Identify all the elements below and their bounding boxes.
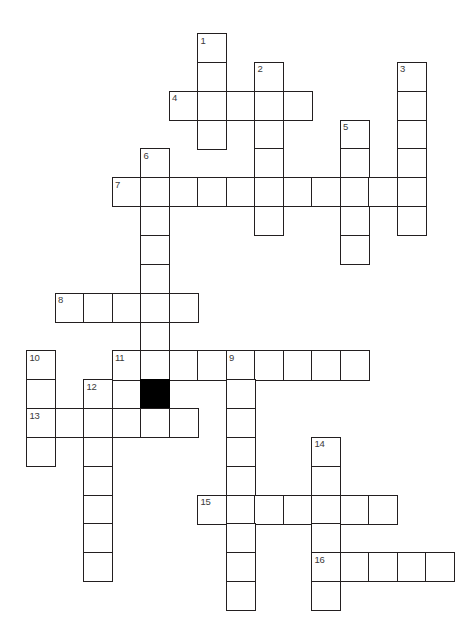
crossword-cell[interactable] [254,148,284,178]
crossword-cell[interactable]: 4 [169,91,199,121]
crossword-cell[interactable] [368,552,398,582]
crossword-cell[interactable] [283,495,313,525]
crossword-cell[interactable] [254,495,284,525]
crossword-cell[interactable] [311,523,341,553]
crossword-cell[interactable] [197,120,227,150]
crossword-cell[interactable] [397,148,427,178]
crossword-cell[interactable] [254,350,284,380]
crossword-cell[interactable] [197,350,227,380]
crossword-cell[interactable] [140,350,170,380]
crossword-cell[interactable] [169,350,199,380]
crossword-cell[interactable]: 8 [55,293,85,323]
crossword-cell[interactable] [140,206,170,236]
crossword-cell[interactable]: 12 [83,379,113,409]
clue-number-15: 15 [201,496,211,507]
clue-number-6: 6 [144,150,149,161]
crossword-cell[interactable] [140,264,170,294]
crossword-cell[interactable] [83,466,113,496]
crossword-cell[interactable]: 9 [226,350,256,380]
clue-number-13: 13 [30,410,40,421]
crossword-cell[interactable] [197,62,227,92]
crossword-cell[interactable] [311,495,341,525]
crossword-cell[interactable] [140,235,170,265]
crossword-cell[interactable] [397,120,427,150]
crossword-cell[interactable] [340,148,370,178]
crossword-cell[interactable] [397,552,427,582]
crossword-cell[interactable]: 14 [311,437,341,467]
crossword-cell[interactable] [140,322,170,352]
crossword-cell[interactable]: 2 [254,62,284,92]
crossword-cell[interactable] [226,581,256,611]
crossword-cell[interactable]: 13 [26,408,56,438]
crossword-cell[interactable] [226,552,256,582]
crossword-cell[interactable] [226,437,256,467]
crossword-cell[interactable] [340,177,370,207]
crossword-puzzle: 12345678101191213141516 [0,0,476,623]
crossword-cell[interactable] [83,293,113,323]
crossword-cell[interactable] [397,206,427,236]
crossword-cell[interactable] [226,177,256,207]
crossword-cell[interactable] [254,120,284,150]
crossword-cell[interactable]: 1 [197,33,227,63]
crossword-cell[interactable] [283,91,313,121]
clue-number-1: 1 [201,35,206,46]
crossword-cell[interactable] [26,437,56,467]
crossword-cell[interactable] [397,177,427,207]
crossword-cell[interactable] [55,408,85,438]
crossword-cell[interactable] [83,523,113,553]
crossword-cell[interactable] [197,177,227,207]
crossword-cell[interactable] [26,379,56,409]
crossword-cell[interactable] [197,91,227,121]
crossword-cell[interactable] [311,466,341,496]
crossword-grid[interactable]: 12345678101191213141516 [0,0,476,623]
clue-number-16: 16 [315,554,325,565]
crossword-cell[interactable] [169,293,199,323]
crossword-cell[interactable] [83,437,113,467]
crossword-cell[interactable] [226,466,256,496]
clue-number-4: 4 [172,92,177,103]
crossword-cell[interactable]: 5 [340,120,370,150]
crossword-cell[interactable] [311,350,341,380]
crossword-cell[interactable] [83,495,113,525]
clue-number-3: 3 [400,63,405,74]
crossword-cell[interactable] [226,523,256,553]
crossword-cell[interactable] [140,177,170,207]
crossword-cell[interactable] [226,495,256,525]
crossword-cell[interactable] [112,293,142,323]
clue-number-8: 8 [58,294,63,305]
crossword-cell[interactable] [368,177,398,207]
crossword-cell[interactable] [397,91,427,121]
crossword-cell[interactable] [140,293,170,323]
crossword-cell[interactable] [169,177,199,207]
crossword-cell[interactable] [340,495,370,525]
crossword-cell[interactable] [368,495,398,525]
crossword-cell[interactable] [83,408,113,438]
crossword-cell[interactable] [254,91,284,121]
crossword-cell[interactable]: 11 [112,350,142,380]
crossword-cell[interactable]: 3 [397,62,427,92]
crossword-cell[interactable] [254,206,284,236]
clue-number-2: 2 [258,63,263,74]
crossword-cell[interactable]: 7 [112,177,142,207]
crossword-cell[interactable] [226,408,256,438]
crossword-cell[interactable] [140,408,170,438]
crossword-cell[interactable] [283,350,313,380]
crossword-cell[interactable]: 16 [311,552,341,582]
crossword-cell[interactable]: 10 [26,350,56,380]
crossword-cell[interactable] [340,350,370,380]
crossword-cell[interactable] [311,581,341,611]
crossword-cell[interactable] [254,177,284,207]
crossword-cell[interactable] [283,177,313,207]
crossword-cell[interactable] [226,379,256,409]
crossword-cell[interactable] [340,235,370,265]
crossword-cell[interactable] [226,91,256,121]
crossword-cell[interactable] [340,552,370,582]
crossword-cell[interactable] [169,408,199,438]
crossword-cell[interactable]: 6 [140,148,170,178]
crossword-cell[interactable] [112,408,142,438]
crossword-cell[interactable] [83,552,113,582]
crossword-cell[interactable] [311,177,341,207]
crossword-cell[interactable] [340,206,370,236]
crossword-cell[interactable] [425,552,455,582]
crossword-cell[interactable]: 15 [197,495,227,525]
